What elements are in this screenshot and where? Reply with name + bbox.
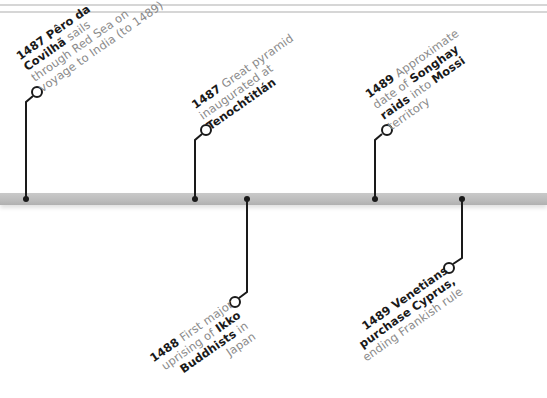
timeline-dot-icon: [244, 196, 250, 202]
connector-event-2: [195, 134, 202, 199]
connector-event-3: [239, 199, 247, 298]
connector-event-4: [375, 134, 382, 199]
timeline-dot-icon: [23, 196, 29, 202]
connector-event-1: [26, 96, 33, 199]
connector-event-5: [453, 199, 462, 264]
timeline-dot-icon: [192, 196, 198, 202]
timeline-dot-icon: [372, 196, 378, 202]
timeline-dot-icon: [459, 196, 465, 202]
